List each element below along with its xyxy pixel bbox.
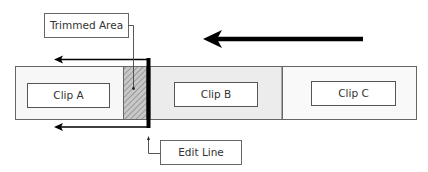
callout-pointer-arrowhead — [147, 136, 150, 140]
clip-c: Clip C — [312, 82, 396, 106]
top-trim-arrow — [54, 56, 149, 64]
clip-a: Clip A — [28, 84, 110, 108]
clip-b: Clip B — [175, 83, 258, 107]
trimmed-area-label: Trimmed Area — [49, 19, 123, 31]
clip-c-label: Clip C — [338, 87, 369, 99]
callout-pointer-dot — [132, 87, 135, 90]
timeline-trim-diagram: Clip A Clip B Clip C Trimmed Area Edit L… — [0, 0, 428, 172]
edit-line-label: Edit Line — [178, 146, 224, 158]
clip-b-label: Clip B — [201, 88, 231, 100]
clip-a-label: Clip A — [53, 89, 84, 101]
direction-arrow — [203, 30, 363, 48]
bottom-trim-arrow — [54, 123, 149, 131]
edit-line-callout: Edit Line — [147, 136, 242, 165]
trimmed-area-region — [124, 67, 147, 120]
